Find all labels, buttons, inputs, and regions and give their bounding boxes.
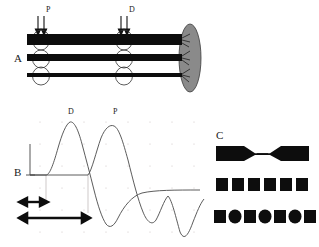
proximal-latency-arrow — [19, 214, 90, 223]
panel-b-plot — [0, 100, 205, 247]
stim-proximal-label: P — [46, 5, 50, 14]
square-shape — [232, 178, 244, 191]
dumbbell-row — [216, 146, 309, 161]
axon-2 — [27, 54, 182, 61]
ellipse-shape — [289, 210, 302, 224]
square-shape — [296, 178, 308, 191]
panel-c-letter: C — [216, 129, 223, 141]
axon-3 — [27, 73, 182, 77]
square-shape — [244, 210, 256, 223]
distal-latency-arrow — [19, 198, 48, 206]
square-shape — [214, 210, 226, 223]
dumbbell-shape — [257, 146, 309, 161]
stim-distal-label: D — [129, 5, 135, 14]
axon-1 — [27, 34, 182, 45]
panel-a-letter: A — [14, 52, 22, 64]
panel-b: B D P — [0, 100, 205, 247]
onset-markers — [46, 175, 88, 213]
panel-c-diagram — [208, 125, 319, 245]
square-shape — [248, 178, 260, 191]
square-shape — [264, 178, 276, 191]
figure-canvas: A P D — [0, 0, 319, 247]
down-arrow-pair-icon-proximal — [35, 16, 46, 35]
square-shape — [280, 178, 292, 191]
trace-label-proximal: P — [113, 107, 117, 116]
panel-a: A P D — [0, 0, 230, 105]
mixed-row — [214, 210, 316, 224]
square-shape — [304, 210, 316, 223]
ellipse-shape — [229, 210, 242, 224]
panel-c: C — [208, 125, 319, 245]
ellipse-shape — [259, 210, 272, 224]
panel-a-diagram — [0, 0, 230, 105]
trace-label-distal: D — [68, 107, 74, 116]
plot-grid — [39, 121, 194, 232]
down-arrow-pair-icon-distal — [118, 16, 129, 35]
square-shape — [216, 178, 228, 191]
baseline-axis — [26, 144, 35, 175]
square-shape — [274, 210, 286, 223]
panel-b-letter: B — [14, 166, 21, 178]
square-row — [216, 178, 308, 191]
